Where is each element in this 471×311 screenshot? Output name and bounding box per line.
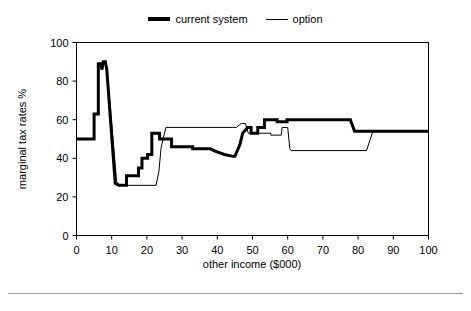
chart-figure: current system option 010203040506070809… xyxy=(0,0,471,311)
y-tick-label: 80 xyxy=(56,75,68,87)
x-tick-label: 90 xyxy=(387,244,399,256)
y-tick-label: 60 xyxy=(56,114,68,126)
x-tick-label: 0 xyxy=(73,244,79,256)
x-tick-label: 40 xyxy=(211,244,223,256)
y-tick-label: 100 xyxy=(50,37,68,49)
x-axis-ticks: 0102030405060708090100 xyxy=(73,236,437,256)
x-tick-label: 10 xyxy=(106,244,118,256)
y-tick-label: 40 xyxy=(56,152,68,164)
y-tick-label: 0 xyxy=(62,230,68,242)
plot-area-wrapper: 0102030405060708090100 020406080100 othe… xyxy=(0,0,471,311)
x-tick-label: 30 xyxy=(176,244,188,256)
chart-svg: 0102030405060708090100 020406080100 othe… xyxy=(0,0,471,311)
y-tick-label: 20 xyxy=(56,191,68,203)
x-axis-label: other income ($000) xyxy=(203,258,301,270)
plot-frame xyxy=(77,43,429,236)
x-tick-label: 50 xyxy=(246,244,258,256)
y-axis-ticks: 020406080100 xyxy=(50,37,76,242)
footer-rule xyxy=(8,293,463,294)
x-tick-label: 80 xyxy=(352,244,364,256)
x-tick-label: 70 xyxy=(317,244,329,256)
x-tick-label: 20 xyxy=(141,244,153,256)
x-tick-label: 100 xyxy=(419,244,437,256)
y-axis-label: marginal tax rates % xyxy=(16,89,28,189)
x-tick-label: 60 xyxy=(282,244,294,256)
